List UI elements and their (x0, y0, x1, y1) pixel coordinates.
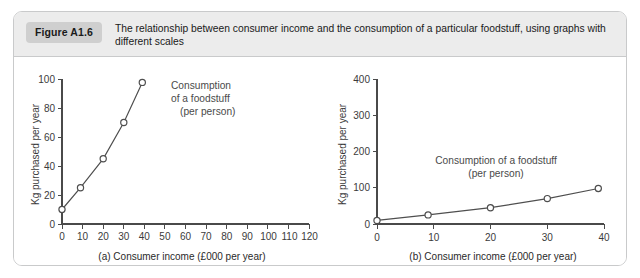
chart-a-point-2 (100, 156, 106, 162)
chart-b-annotation-line-2: (per person) (468, 168, 524, 179)
chart-b-xtick-40: 40 (598, 232, 610, 243)
chart-a-sub-caption: (a) Consumer income (£000 per year) (98, 251, 265, 262)
chart-a-point-0 (59, 206, 65, 212)
chart-a-xtick-100: 100 (260, 231, 277, 242)
chart-a-xtick-60: 60 (180, 231, 192, 242)
chart-b-xtick-30: 30 (542, 232, 554, 243)
chart-b-x-ticks: 0 10 20 30 40 (374, 224, 610, 243)
chart-b-annotation-line-1: Consumption of a foodstuff (435, 155, 557, 166)
chart-b-annotation: Consumption of a foodstuff (per person) (435, 155, 557, 179)
chart-a-xtick-0: 0 (59, 231, 65, 242)
chart-a-point-4 (139, 79, 145, 85)
chart-a-ytick-40: 40 (44, 161, 56, 172)
chart-b-point-0 (374, 217, 380, 223)
chart-a-svg: Kg purchased per year 0 20 40 60 80 (14, 57, 321, 266)
chart-a-xtick-50: 50 (159, 231, 171, 242)
chart-b-point-4 (595, 185, 601, 191)
chart-a-annotation-line-1: Consumption (171, 80, 231, 91)
chart-a-annotation-line-2: of a foodstuff (171, 93, 230, 104)
chart-panel-a: Kg purchased per year 0 20 40 60 80 (14, 57, 321, 266)
chart-a-ytick-60: 60 (44, 132, 56, 143)
chart-a-xtick-120: 120 (301, 231, 318, 242)
figure-number-badge: Figure A1.6 (26, 22, 102, 43)
chart-a-x-ticks: 0 10 20 30 40 50 60 70 80 90 100 110 120 (59, 224, 318, 242)
chart-b-series-line (377, 189, 598, 221)
figure-panel: Figure A1.6 The relationship between con… (13, 11, 627, 266)
figure-header: Figure A1.6 The relationship between con… (14, 12, 626, 57)
chart-b-svg: Kg purchased per year 0 100 200 300 400 (321, 57, 627, 266)
chart-b-xtick-20: 20 (485, 232, 497, 243)
chart-panel-b: Kg purchased per year 0 100 200 300 400 (321, 57, 627, 266)
figure-body: Kg purchased per year 0 20 40 60 80 (14, 57, 626, 266)
chart-a-xtick-10: 10 (77, 231, 89, 242)
chart-a-xtick-70: 70 (201, 231, 213, 242)
figure-caption-text: The relationship between consumer income… (115, 21, 612, 49)
chart-b-xtick-10: 10 (428, 232, 440, 243)
chart-b-y-axis-title: Kg purchased per year (337, 103, 348, 205)
chart-a-annotation: Consumption of a foodstuff (per person) (171, 80, 236, 117)
chart-b-ytick-0: 0 (364, 219, 370, 230)
chart-a-xtick-90: 90 (242, 231, 254, 242)
chart-b-point-1 (425, 212, 431, 218)
chart-b-ytick-300: 300 (353, 110, 370, 121)
chart-a-xtick-80: 80 (221, 231, 233, 242)
chart-b-xtick-0: 0 (374, 232, 380, 243)
chart-a-point-3 (121, 119, 127, 125)
chart-b-point-3 (544, 196, 550, 202)
chart-a-ytick-80: 80 (44, 103, 56, 114)
chart-a-y-axis-title: Kg purchased per year (30, 103, 41, 205)
chart-a-annotation-line-3: (per person) (180, 106, 236, 117)
chart-b-y-ticks: 0 100 200 300 400 (353, 74, 377, 230)
chart-b-ytick-100: 100 (353, 182, 370, 193)
chart-a-point-1 (77, 185, 83, 191)
chart-b-sub-caption: (b) Consumer income (£000 per year) (409, 251, 576, 262)
chart-b-data-points (374, 185, 602, 223)
chart-a-ytick-100: 100 (38, 74, 55, 85)
chart-a-ytick-0: 0 (49, 219, 55, 230)
chart-a-xtick-110: 110 (282, 231, 298, 242)
chart-b-point-2 (487, 205, 493, 211)
chart-b-ytick-200: 200 (353, 146, 370, 157)
chart-a-xtick-30: 30 (118, 231, 130, 242)
chart-a-xtick-20: 20 (98, 231, 110, 242)
chart-a-series-line (62, 82, 142, 209)
chart-a-data-points (59, 79, 146, 212)
chart-b-ytick-400: 400 (353, 74, 370, 85)
chart-a-xtick-40: 40 (139, 231, 151, 242)
chart-a-ytick-20: 20 (44, 190, 56, 201)
chart-a-y-ticks: 0 20 40 60 80 100 (38, 74, 62, 230)
